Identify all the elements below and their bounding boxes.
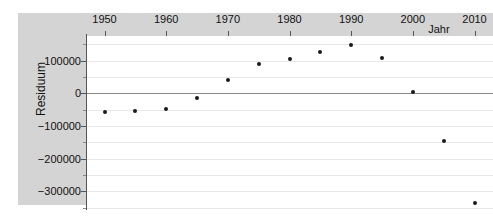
x-tick-label: 1950 [92, 14, 116, 25]
x-tick-label: 2000 [401, 14, 425, 25]
zero-line [86, 93, 493, 94]
y-tick [81, 126, 86, 127]
gridline-minor [86, 175, 493, 176]
gridline-major [86, 159, 493, 160]
x-tick-label: 1970 [216, 14, 240, 25]
y-tick-label: 100000 [21, 56, 81, 67]
y-tick [81, 159, 86, 160]
x-tick [290, 31, 291, 36]
x-tick [105, 31, 106, 36]
data-point [288, 57, 292, 61]
gridline-major [86, 191, 493, 192]
y-tick-minor [83, 208, 86, 209]
gridline-major [86, 126, 493, 127]
y-tick-minor [83, 77, 86, 78]
y-axis-title: Residuum [34, 62, 48, 116]
y-axis-line [86, 34, 87, 210]
y-tick-label: −100000 [21, 121, 81, 132]
data-point [318, 50, 322, 54]
data-point [349, 43, 353, 47]
data-point [473, 201, 477, 205]
y-tick [81, 191, 86, 192]
x-tick [413, 31, 414, 36]
x-tick [475, 31, 476, 36]
data-point [442, 139, 446, 143]
x-tick-label: 2010 [462, 14, 486, 25]
y-tick-minor [83, 175, 86, 176]
y-tick [81, 93, 86, 94]
data-point [257, 62, 261, 66]
residual-scatter-chart: 1950196019701980199020002010 1000000−100… [0, 0, 493, 218]
x-tick [228, 31, 229, 36]
data-point [226, 78, 230, 82]
gridline-minor [86, 77, 493, 78]
data-point [103, 110, 107, 114]
x-tick-label: 1980 [277, 14, 301, 25]
x-tick-label: 1960 [154, 14, 178, 25]
y-tick-minor [83, 110, 86, 111]
data-point [411, 90, 415, 94]
y-tick-minor [83, 142, 86, 143]
gridline-minor [86, 44, 493, 45]
data-point [195, 96, 199, 100]
x-axis-title: Jahr [428, 23, 449, 35]
gridline-minor [86, 110, 493, 111]
gridline-minor [86, 208, 493, 209]
y-tick-minor [83, 44, 86, 45]
y-tick [81, 61, 86, 62]
gridline-minor [86, 142, 493, 143]
y-tick-label: 0 [21, 88, 81, 99]
x-tick [351, 31, 352, 36]
plot-area [86, 36, 493, 211]
x-tick-label: 1990 [339, 14, 363, 25]
gridline-major [86, 61, 493, 62]
x-tick [166, 31, 167, 36]
y-tick-label: −200000 [21, 154, 81, 165]
data-point [164, 107, 168, 111]
y-axis-panel-background [18, 13, 86, 205]
data-point [133, 109, 137, 113]
y-tick-label: −300000 [21, 186, 81, 197]
